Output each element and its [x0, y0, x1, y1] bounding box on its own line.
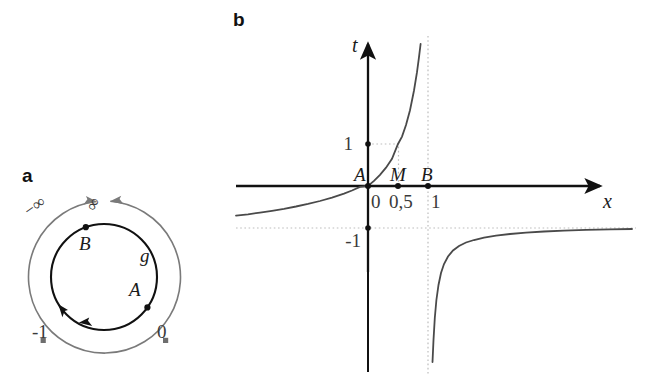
curve-left-branch	[236, 44, 421, 216]
t-axis-label: t	[352, 34, 358, 56]
t-tick-label-1: 1	[344, 133, 354, 154]
point-B-label: B	[421, 164, 433, 185]
x-tick-label-half: 0,5	[389, 191, 413, 212]
x-axis-label: x	[602, 190, 612, 212]
x-tick-label-0: 0	[371, 191, 381, 212]
point-M-label: M	[389, 164, 407, 185]
panel-b-chart: A M B 0 0,5 1 1 -1 t x	[0, 0, 646, 387]
tick-t-minus-one-dot	[365, 225, 371, 231]
curve-right-branch	[433, 229, 633, 362]
tick-t-one-dot	[365, 141, 371, 147]
point-A-label: A	[352, 164, 366, 185]
figure-container: a b	[0, 0, 646, 387]
x-tick-label-1: 1	[431, 191, 441, 212]
point-A-dot	[365, 183, 371, 189]
t-tick-label-minus-1: -1	[345, 230, 361, 251]
